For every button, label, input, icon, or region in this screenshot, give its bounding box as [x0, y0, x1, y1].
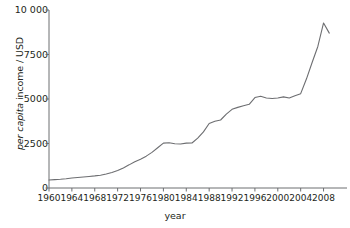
chart-container: per capita income / USD 025005000750010 …: [0, 0, 350, 228]
data-series-line: [49, 23, 329, 180]
plot-area: [0, 0, 350, 228]
y-axis-ticks: [46, 10, 50, 188]
x-axis-ticks: [49, 188, 324, 192]
axis-lines: [49, 10, 347, 188]
